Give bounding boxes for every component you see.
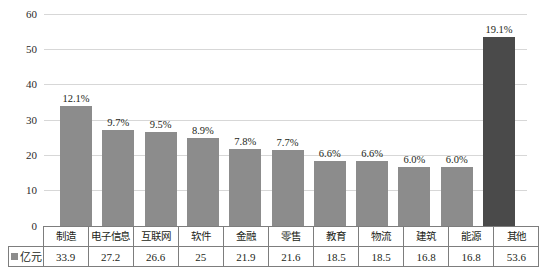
bar [229,149,261,226]
y-tick-50: 50 [26,44,37,55]
bar [314,161,346,226]
y-tick-60: 60 [26,9,37,20]
bar-value-label: 19.1% [479,24,519,35]
bar-column: 19.1% [479,6,519,226]
bar [60,106,92,226]
bar-column: 6.0% [437,6,477,226]
data-table: 制造电子信息互联网软件金融零售教育物流建筑能源其他 亿元 33.927.226.… [8,226,539,267]
y-tick-10: 10 [26,185,37,196]
legend-label: 亿元 [20,251,42,263]
plot-area: 60 50 40 30 20 10 0 12.1%9.7%9.5%8.9%7.8… [0,0,537,232]
table-cell-category: 教育 [313,227,358,247]
table-cell-category: 物流 [359,227,404,247]
table-cell-value: 26.6 [133,247,178,267]
table-cell-category: 软件 [178,227,223,247]
table-cell-value: 21.9 [223,247,268,267]
bar-value-label: 7.8% [225,136,265,147]
y-tick-40: 40 [26,79,37,90]
bars-layer: 12.1%9.7%9.5%8.9%7.8%7.7%6.6%6.6%6.0%6.0… [44,0,527,232]
table-row-values: 亿元 33.927.226.62521.921.618.518.516.816.… [9,247,539,267]
bar-value-label: 6.0% [394,154,434,165]
table-cell-value: 16.8 [404,247,449,267]
y-tick-20: 20 [26,150,37,161]
bar-value-label: 8.9% [183,125,223,136]
table-cell-value: 33.9 [43,247,88,267]
bar-value-label: 6.6% [352,148,392,159]
bar [145,132,177,226]
bar [441,167,473,226]
bar-column: 6.6% [352,6,392,226]
legend-swatch-icon [11,253,18,260]
table-cell-value: 25 [178,247,223,267]
bar-column: 9.5% [141,6,181,226]
table-cell-category: 制造 [43,227,88,247]
legend-cell: 亿元 [9,247,44,267]
table-cell-value: 18.5 [359,247,404,267]
bar-column: 8.9% [183,6,223,226]
bar-column: 12.1% [56,6,96,226]
table-cell-category: 其他 [494,227,539,247]
table-corner-blank [9,227,44,247]
bar [102,130,134,226]
table-cell-value: 27.2 [88,247,133,267]
table-cell-value: 16.8 [449,247,494,267]
y-tick-30: 30 [26,115,37,126]
table-cell-category: 电子信息 [88,227,133,247]
bar-column: 6.0% [394,6,434,226]
bar-column: 7.7% [268,6,308,226]
bar-value-label: 6.6% [310,148,350,159]
bar-column: 7.8% [225,6,265,226]
table-cell-category: 建筑 [404,227,449,247]
bar-value-label: 12.1% [56,93,96,104]
bar-value-label: 9.7% [98,117,138,128]
bar-column: 6.6% [310,6,350,226]
bar-value-label: 6.0% [437,154,477,165]
table-cell-category: 零售 [268,227,313,247]
bar [187,138,219,226]
bar-column: 9.7% [98,6,138,226]
bar-value-label: 9.5% [141,119,181,130]
table-cell-value: 53.6 [494,247,539,267]
bar [272,150,304,226]
table-cell-category: 能源 [449,227,494,247]
bar [356,161,388,226]
table-row-category-names: 制造电子信息互联网软件金融零售教育物流建筑能源其他 [9,227,539,247]
table-cell-value: 21.6 [268,247,313,267]
bar-value-label: 7.7% [268,137,308,148]
bar [483,37,515,226]
table-cell-category: 金融 [223,227,268,247]
bar [398,167,430,226]
y-axis: 60 50 40 30 20 10 0 [0,0,44,232]
table-cell-value: 18.5 [313,247,358,267]
table-cell-category: 互联网 [133,227,178,247]
